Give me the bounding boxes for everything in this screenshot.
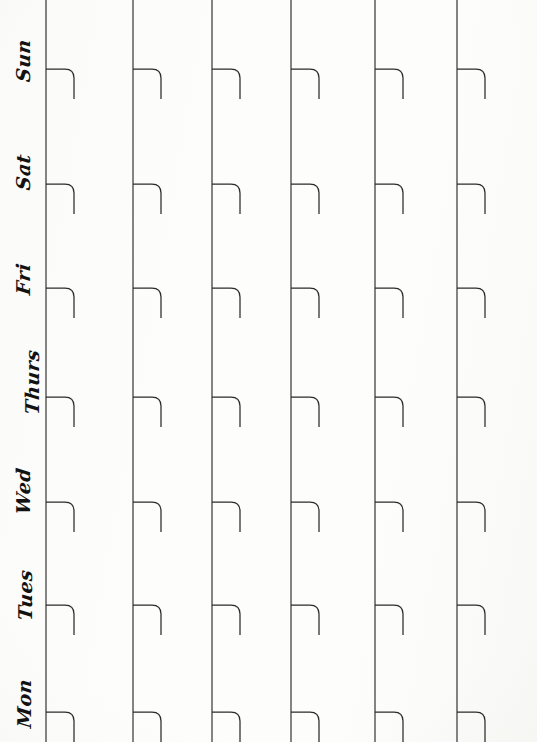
tab-hook-friday-2 (133, 288, 161, 318)
day-label-text: Tues (0, 565, 65, 624)
planner-grid (0, 0, 537, 742)
row-lines-group (0, 99, 534, 635)
day-label-saturday: Sat (0, 130, 46, 214)
day-label-text: Thurs (0, 345, 77, 419)
tab-hook-wednesday-4 (291, 502, 319, 532)
tab-hook-wednesday-6 (457, 502, 485, 532)
tab-hook-monday-5 (375, 712, 403, 742)
tab-hook-tuesday-4 (291, 605, 319, 635)
day-label-text: Sun (0, 35, 62, 86)
tab-hook-saturday-4 (291, 184, 319, 214)
tab-hook-sunday-5 (375, 69, 403, 99)
tab-hook-saturday-5 (375, 184, 403, 214)
day-label-text: Mon (0, 675, 63, 732)
tab-hook-monday-4 (291, 712, 319, 742)
tab-hook-monday-3 (212, 712, 240, 742)
tab-hook-saturday-3 (212, 184, 240, 214)
tab-hook-monday-2 (133, 712, 161, 742)
tab-hook-monday-6 (457, 712, 485, 742)
tab-hook-wednesday-3 (212, 502, 240, 532)
day-label-friday: Fri (0, 240, 46, 318)
tab-hook-tuesday-3 (212, 605, 240, 635)
tab-hook-thursday-2 (133, 397, 161, 427)
day-label-text: Wed (0, 464, 64, 519)
day-label-wednesday: Wed (0, 450, 46, 532)
tab-hook-thursday-3 (212, 397, 240, 427)
tab-hook-thursday-4 (291, 397, 319, 427)
tab-hooks-group (46, 69, 485, 742)
column-lines-group (46, 0, 457, 742)
planner-page: SunSatFriThursWedTuesMon (0, 0, 537, 742)
tab-hook-thursday-5 (375, 397, 403, 427)
tab-hook-sunday-2 (133, 69, 161, 99)
tab-hook-tuesday-6 (457, 605, 485, 635)
tab-hook-friday-5 (375, 288, 403, 318)
tab-hook-friday-4 (291, 288, 319, 318)
tab-hook-sunday-3 (212, 69, 240, 99)
tab-hook-saturday-6 (457, 184, 485, 214)
tab-hook-thursday-6 (457, 397, 485, 427)
tab-hook-tuesday-2 (133, 605, 161, 635)
tab-hook-tuesday-5 (375, 605, 403, 635)
tab-hook-wednesday-2 (133, 502, 161, 532)
tab-hook-sunday-6 (457, 69, 485, 99)
tab-hook-wednesday-5 (375, 502, 403, 532)
tab-hook-saturday-2 (133, 184, 161, 214)
day-label-thursday: Thurs (0, 337, 46, 427)
tab-hook-friday-6 (457, 288, 485, 318)
tab-hook-sunday-4 (291, 69, 319, 99)
day-label-monday: Mon (0, 665, 46, 742)
tab-hook-friday-3 (212, 288, 240, 318)
day-label-sunday: Sun (0, 22, 46, 99)
day-label-tuesday: Tues (0, 555, 46, 635)
